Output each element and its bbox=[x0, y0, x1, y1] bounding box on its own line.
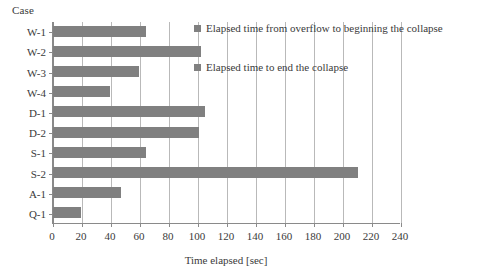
bar bbox=[53, 66, 139, 77]
bar-row bbox=[53, 184, 400, 204]
x-axis-tick-label: 100 bbox=[189, 230, 206, 242]
bar-row bbox=[53, 42, 400, 62]
y-axis-tick-labels: W-1W-2W-3W-4D-1D-2S-1S-2A-1Q-1 bbox=[0, 22, 46, 224]
x-axis-title: Time elapsed [sec] bbox=[52, 254, 400, 266]
x-axis-tick-label: 20 bbox=[76, 230, 87, 242]
y-axis-tick bbox=[49, 93, 53, 94]
bar-row bbox=[53, 123, 400, 143]
x-axis-tick-label: 140 bbox=[247, 230, 264, 242]
y-axis-tick bbox=[49, 174, 53, 175]
bar bbox=[53, 106, 205, 117]
x-axis-tick-label: 180 bbox=[305, 230, 322, 242]
legend-swatch-icon bbox=[194, 25, 201, 32]
y-axis-tick-label: S-1 bbox=[2, 147, 46, 159]
bar bbox=[53, 127, 199, 138]
x-axis-tick-label: 200 bbox=[334, 230, 351, 242]
y-axis-tick-label: S-2 bbox=[2, 168, 46, 180]
y-axis-tick-label: W-1 bbox=[2, 26, 46, 38]
legend-label: Elapsed time from overflow to beginning … bbox=[206, 22, 443, 34]
x-axis-tick-label: 40 bbox=[105, 230, 116, 242]
bar bbox=[53, 86, 110, 97]
y-axis-tick-label: D-2 bbox=[2, 127, 46, 139]
y-axis-tick-label: W-2 bbox=[2, 46, 46, 58]
legend-item-1: Elapsed time to end the collapse bbox=[194, 61, 348, 73]
bar-chart: Case W-1W-2W-3W-4D-1D-2S-1S-2A-1Q-1 0204… bbox=[0, 0, 493, 280]
y-axis-tick-label: W-3 bbox=[2, 67, 46, 79]
y-axis-tick-label: Q-1 bbox=[2, 208, 46, 220]
x-axis-tick bbox=[401, 223, 402, 227]
y-axis-tick bbox=[49, 113, 53, 114]
y-axis-tick bbox=[49, 133, 53, 134]
bar bbox=[53, 207, 81, 218]
bar-series bbox=[53, 22, 400, 223]
x-axis-tick-label: 0 bbox=[49, 230, 55, 242]
y-axis-tick bbox=[49, 194, 53, 195]
bar-row bbox=[53, 143, 400, 163]
legend-swatch-icon bbox=[194, 64, 201, 71]
x-axis-tick-label: 120 bbox=[218, 230, 235, 242]
x-axis-tick-label: 240 bbox=[392, 230, 409, 242]
bar-row bbox=[53, 83, 400, 103]
y-axis-tick-label: W-4 bbox=[2, 87, 46, 99]
y-axis-title: Case bbox=[12, 4, 34, 16]
bar bbox=[53, 187, 121, 198]
y-axis-tick bbox=[49, 153, 53, 154]
x-axis-tick-label: 80 bbox=[163, 230, 174, 242]
legend-item-0: Elapsed time from overflow to beginning … bbox=[194, 22, 443, 34]
x-axis-tick-label: 160 bbox=[276, 230, 293, 242]
bar-row bbox=[53, 103, 400, 123]
bar bbox=[53, 46, 201, 57]
bar-row bbox=[53, 204, 400, 224]
plot-area bbox=[52, 22, 400, 224]
legend-label: Elapsed time to end the collapse bbox=[206, 61, 348, 73]
bar bbox=[53, 26, 146, 37]
bar bbox=[53, 147, 146, 158]
y-axis-tick bbox=[49, 52, 53, 53]
bar-row bbox=[53, 163, 400, 183]
y-axis-tick bbox=[49, 32, 53, 33]
bar bbox=[53, 167, 358, 178]
x-axis-tick-label: 60 bbox=[134, 230, 145, 242]
y-axis-tick bbox=[49, 73, 53, 74]
y-axis-tick-label: D-1 bbox=[2, 107, 46, 119]
y-axis-tick bbox=[49, 214, 53, 215]
gridline bbox=[401, 22, 402, 223]
y-axis-tick-label: A-1 bbox=[2, 188, 46, 200]
x-axis-tick-label: 220 bbox=[363, 230, 380, 242]
